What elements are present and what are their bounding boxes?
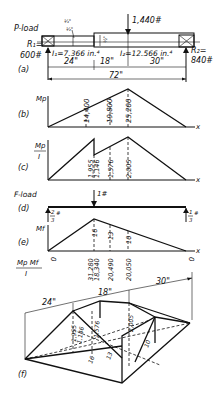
beam-analysis-figure: P-load ¼" ½" ½" 1,440# R₁= 600# R₂= 840#…: [0, 0, 220, 393]
r2-value: 840#: [191, 56, 213, 65]
product-value-5: 0: [187, 257, 195, 262]
product-value-0: 0: [49, 257, 57, 262]
mp-over-i-num: Mp: [35, 142, 46, 150]
product-value-4: 20,050: [125, 258, 133, 281]
dim-24: 24": [64, 57, 78, 66]
iso-label-10: 10: [142, 339, 151, 349]
mp-over-i-value-4: 2,005: [125, 159, 133, 178]
mp-over-i-den: I: [38, 153, 40, 161]
r-right-num: 1: [189, 209, 193, 215]
r-right-den: 3: [189, 217, 193, 223]
dim-18: 18": [100, 57, 114, 66]
mp-xlabel: x: [195, 123, 201, 131]
p-load-label: P-load: [14, 24, 39, 33]
part-c-label: (c): [18, 163, 29, 172]
iso-dim-18: 18": [98, 288, 112, 297]
i2-label: I₂=12.566 in.⁴: [120, 49, 172, 58]
dim-72: 72": [109, 71, 123, 80]
mp-over-i-curve: [48, 137, 186, 180]
part-e-label: (e): [18, 238, 29, 247]
r-left-unit: #: [56, 210, 61, 216]
product-label-num: Mp Mf: [17, 259, 40, 267]
load-value: 1,440#: [132, 16, 162, 25]
mp-ylabel: Mp: [36, 95, 47, 103]
mf-xlabel: x: [195, 247, 201, 255]
product-value-3: 20,490: [107, 258, 115, 281]
isometric-solid: [25, 301, 190, 383]
part-d-label: (d): [18, 204, 29, 213]
r1-value: 600#: [20, 51, 42, 60]
mf-value-1: 16: [91, 229, 99, 237]
iso-dim-24: 24": [42, 298, 56, 307]
mp-value-2: 19,800: [106, 98, 114, 123]
depth-mark: ½": [102, 36, 108, 43]
mp-curve: [48, 89, 186, 127]
mp-value-3: 25,200: [125, 98, 133, 123]
iso-label-13: 13: [104, 351, 113, 361]
part-b-label: (b): [18, 110, 29, 119]
beam-section-i1: [42, 36, 94, 46]
mp-over-i-value-2: 1,146: [93, 159, 101, 178]
r2-label: R₂=: [191, 46, 206, 55]
mf-value-2: 13: [107, 232, 115, 240]
dim-30: 30": [150, 57, 164, 66]
small-dim-label: ¼": [64, 18, 71, 24]
f-load-label: F-load: [14, 190, 37, 199]
part-f-label: (f): [18, 370, 27, 379]
mf-curve: [48, 219, 186, 251]
iso-label-16: 16: [86, 355, 95, 365]
part-a-label: (a): [18, 65, 29, 74]
iso-dim-30: 30": [156, 277, 170, 286]
mp-over-i-xlabel: x: [195, 176, 201, 184]
mf-ylabel: Mf: [36, 225, 46, 233]
mp-over-i-value-3: 1,576: [107, 159, 115, 178]
iso-label-2005: 2,005: [127, 315, 134, 332]
product-value-2: 18,340: [93, 258, 101, 281]
product-label-den: I: [25, 270, 27, 278]
r-left-den: 3: [51, 217, 55, 223]
r-right-unit: #: [194, 210, 199, 216]
mf-value-3: 10: [125, 236, 133, 244]
unit-load-value: 1#: [97, 190, 107, 198]
r1-label: R₁=: [27, 40, 42, 49]
r-left-num: 2: [51, 209, 55, 215]
mp-value-1: 14,400: [83, 98, 91, 123]
